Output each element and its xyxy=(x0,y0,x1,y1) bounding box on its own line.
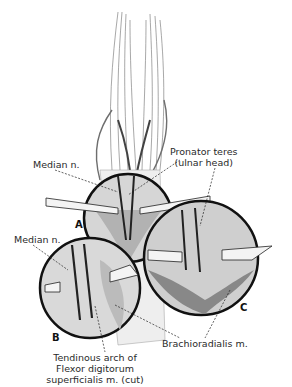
label-pronator-line1: Pronator teres xyxy=(170,146,237,157)
label-pronator-teres: Pronator teres (ulnar head) xyxy=(170,146,237,168)
label-median-nerve-top: Median n. xyxy=(33,159,80,170)
inset-letter-b: B xyxy=(52,332,60,343)
retractor-left-c xyxy=(148,250,182,262)
label-tendinous-line3: superficialis m. (cut) xyxy=(40,374,150,385)
label-brachioradialis: Brachioradialis m. xyxy=(162,338,248,349)
label-tendinous-line1: Tendinous arch of xyxy=(40,352,150,363)
label-median-nerve-left: Median n. xyxy=(14,234,61,245)
inset-c xyxy=(144,201,272,315)
upper-arm-muscles xyxy=(96,12,166,190)
label-tendinous-line2: Flexor digitorum xyxy=(40,363,150,374)
inset-letter-c: C xyxy=(240,302,247,313)
inset-b xyxy=(40,238,140,338)
inset-letter-a: A xyxy=(75,219,83,230)
label-pronator-line2: (ulnar head) xyxy=(170,157,237,168)
label-tendinous-arch: Tendinous arch of Flexor digitorum super… xyxy=(40,352,150,385)
anatomy-illustration xyxy=(0,0,292,387)
